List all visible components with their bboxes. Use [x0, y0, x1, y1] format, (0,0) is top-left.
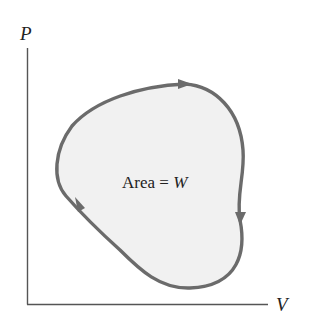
area-label-variable: W	[173, 173, 189, 192]
area-label: Area = W	[122, 173, 189, 192]
area-label-prefix: Area =	[122, 173, 173, 192]
pv-diagram: P V Area = W	[0, 0, 313, 334]
x-axis-label: V	[276, 294, 290, 315]
y-axis-label: P	[19, 23, 32, 44]
